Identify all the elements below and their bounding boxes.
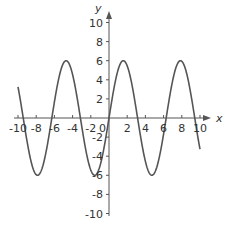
x-tick-label: -10 <box>9 122 27 135</box>
y-tick-label: 10 <box>89 17 103 30</box>
x-tick-label: 10 <box>193 122 207 135</box>
sine-chart: -10-8-6-4-2246810-10-8-6-4-22468100xy <box>0 0 226 228</box>
y-axis-label: y <box>94 2 102 15</box>
y-axis-arrow-icon <box>106 11 112 19</box>
y-tick-label: -8 <box>92 188 103 201</box>
y-tick-label: 4 <box>96 74 103 87</box>
x-tick-label: -8 <box>31 122 42 135</box>
y-tick-label: -10 <box>85 208 103 221</box>
y-tick-label: -4 <box>92 150 103 163</box>
x-tick-label: 2 <box>124 122 131 135</box>
x-tick-label: -6 <box>49 122 60 135</box>
x-tick-label: 4 <box>142 122 149 135</box>
y-tick-label: -6 <box>92 169 103 182</box>
y-tick-label: 8 <box>96 36 103 49</box>
y-tick-label: 2 <box>96 93 103 106</box>
x-tick-label: 6 <box>160 122 167 135</box>
tick-labels: -10-8-6-4-2246810-10-8-6-4-22468100xy <box>9 2 223 221</box>
y-tick-label: 6 <box>96 55 103 68</box>
origin-label: 0 <box>99 122 106 135</box>
x-axis-label: x <box>215 112 223 125</box>
axes <box>14 11 211 216</box>
x-tick-label: 8 <box>178 122 185 135</box>
x-tick-label: -4 <box>67 122 78 135</box>
x-axis-arrow-icon <box>203 115 211 121</box>
